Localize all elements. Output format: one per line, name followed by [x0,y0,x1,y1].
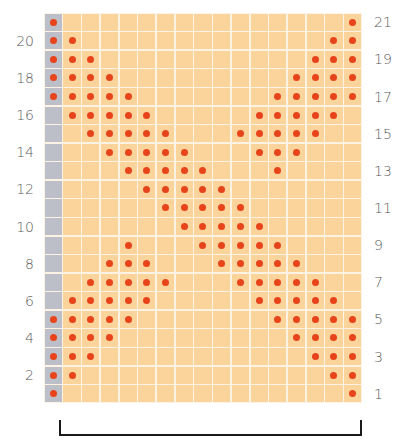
repeat-bracket [59,420,362,436]
stitch-cell [307,367,324,384]
contrast-stitch-dot [293,112,300,119]
stitch-cell [63,218,80,235]
edge-stitch-cell [45,367,62,384]
stitch-cell [157,69,174,86]
contrast-stitch-dot [199,186,206,193]
row-number-label: 8 [4,256,34,272]
stitch-cell [176,329,193,346]
contrast-stitch-dot [330,316,337,323]
stitch-cell [251,218,268,235]
stitch-cell [288,385,305,402]
stitch-cell [232,385,249,402]
stitch-cell [194,237,211,254]
stitch-cell [307,69,324,86]
stitch-cell [325,162,342,179]
stitch-cell [307,329,324,346]
stitch-cell [157,274,174,291]
stitch-cell [307,181,324,198]
stitch-cell [138,348,155,365]
stitch-cell [307,292,324,309]
stitch-cell [120,255,137,272]
stitch-cell [82,367,99,384]
contrast-stitch-dot [69,372,76,379]
stitch-cell [344,255,361,272]
stitch-cell [307,107,324,124]
stitch-cell [157,311,174,328]
stitch-cell [213,51,230,68]
contrast-stitch-dot [274,260,281,267]
stitch-cell [194,144,211,161]
stitch-cell [325,88,342,105]
stitch-cell [269,162,286,179]
contrast-stitch-dot [237,223,244,230]
stitch-cell [138,125,155,142]
stitch-cell [288,69,305,86]
contrast-stitch-dot [106,334,113,341]
stitch-cell [325,181,342,198]
row-number-label: 16 [4,107,34,123]
stitch-cell [120,51,137,68]
contrast-stitch-dot [69,316,76,323]
stitch-cell [194,255,211,272]
edge-stitch-cell [45,32,62,49]
stitch-cell [288,181,305,198]
stitch-cell [82,107,99,124]
stitch-cell [269,51,286,68]
edge-stitch-cell [45,162,62,179]
stitch-cell [157,329,174,346]
stitch-cell [213,311,230,328]
stitch-cell [307,274,324,291]
contrast-stitch-dot [125,112,132,119]
stitch-cell [251,14,268,31]
row-number-label: 1 [374,386,383,402]
stitch-cell [157,255,174,272]
contrast-stitch-dot [218,242,225,249]
stitch-cell [213,237,230,254]
contrast-stitch-dot [256,130,263,137]
stitch-cell [288,199,305,216]
contrast-stitch-dot [274,279,281,286]
stitch-cell [288,348,305,365]
contrast-stitch-dot [199,167,206,174]
stitch-cell [194,107,211,124]
edge-stitch-cell [45,255,62,272]
contrast-stitch-dot [87,130,94,137]
contrast-stitch-dot [330,56,337,63]
contrast-stitch-dot [330,334,337,341]
stitch-cell [176,367,193,384]
stitch-cell [269,125,286,142]
stitch-cell [101,51,118,68]
stitch-cell [138,385,155,402]
stitch-cell [194,274,211,291]
stitch-cell [232,144,249,161]
edge-stitch-cell [45,274,62,291]
contrast-stitch-dot [199,223,206,230]
stitch-cell [269,14,286,31]
stitch-cell [157,107,174,124]
stitch-cell [176,348,193,365]
row-number-label: 6 [4,293,34,309]
stitch-cell [269,292,286,309]
contrast-stitch-dot [87,112,94,119]
stitch-cell [251,367,268,384]
stitch-cell [101,311,118,328]
stitch-cell [251,69,268,86]
stitch-cell [232,107,249,124]
contrast-stitch-dot [293,334,300,341]
stitch-cell [288,255,305,272]
stitch-cell [213,88,230,105]
contrast-stitch-dot [69,93,76,100]
stitch-cell [344,125,361,142]
contrast-stitch-dot [69,112,76,119]
contrast-stitch-dot [293,149,300,156]
stitch-cell [63,69,80,86]
stitch-cell [63,237,80,254]
stitch-cell [194,348,211,365]
stitch-cell [344,144,361,161]
stitch-cell [82,237,99,254]
stitch-cell [176,162,193,179]
stitch-cell [325,237,342,254]
contrast-stitch-dot [312,297,319,304]
contrast-stitch-dot [349,93,356,100]
stitch-cell [138,181,155,198]
